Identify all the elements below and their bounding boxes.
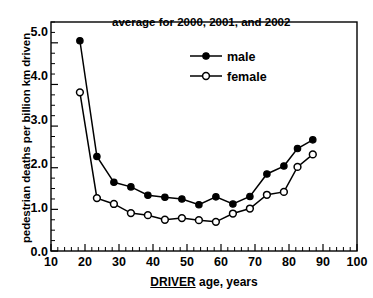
- data-point-female: [94, 195, 101, 202]
- x-axis-title-rest: age, years: [196, 275, 258, 289]
- data-point-female: [145, 212, 152, 219]
- y-tick-label: 2.0: [14, 158, 48, 171]
- legend-label-female: female: [227, 70, 267, 84]
- legend-marker-female: [203, 73, 210, 80]
- data-point-male: [264, 171, 270, 177]
- data-point-female: [179, 215, 186, 222]
- data-series-group: [77, 38, 317, 226]
- data-point-male: [196, 202, 202, 208]
- data-point-male: [94, 153, 100, 159]
- legend-marker-male: [203, 53, 209, 59]
- data-point-female: [77, 89, 84, 96]
- data-point-male: [213, 194, 219, 200]
- data-point-male: [162, 194, 168, 200]
- legend-symbols: [190, 53, 222, 80]
- chart-annotation: average for 2000, 2001, and 2002: [112, 16, 290, 28]
- chart-figure: pedestrian deaths per billion km driven …: [0, 0, 373, 298]
- data-point-female: [111, 201, 118, 208]
- x-tick-label: 100: [337, 256, 373, 269]
- data-point-male: [145, 192, 151, 198]
- data-point-male: [281, 163, 287, 169]
- data-point-female: [162, 216, 169, 223]
- data-point-male: [128, 184, 134, 190]
- y-tick-label: 1.0: [14, 202, 48, 215]
- data-point-female: [213, 218, 220, 225]
- data-point-female: [294, 163, 301, 170]
- y-tick-label: 5.0: [14, 26, 48, 39]
- data-point-male: [294, 145, 300, 151]
- data-point-female: [127, 210, 134, 217]
- data-point-female: [247, 205, 254, 212]
- x-axis-title-emphasis: DRIVER: [150, 275, 195, 289]
- plot-area: [0, 0, 373, 298]
- y-tick-label: 3.0: [14, 114, 48, 127]
- legend-label-male: male: [227, 50, 256, 64]
- y-axis-tick-labels: 0.0 1.0 2.0 3.0 4.0 5.0: [8, 0, 48, 298]
- y-tick-label: 4.0: [14, 70, 48, 83]
- data-point-female: [196, 217, 203, 224]
- data-point-male: [247, 193, 253, 199]
- data-point-female: [281, 188, 288, 195]
- data-point-male: [230, 201, 236, 207]
- data-point-female: [230, 210, 237, 217]
- data-point-female: [264, 191, 271, 198]
- x-axis-title: DRIVER age, years: [51, 275, 357, 289]
- data-point-male: [179, 196, 185, 202]
- data-point-male: [77, 38, 83, 44]
- data-point-male: [111, 179, 117, 185]
- data-point-female: [309, 151, 316, 158]
- data-point-male: [310, 137, 316, 143]
